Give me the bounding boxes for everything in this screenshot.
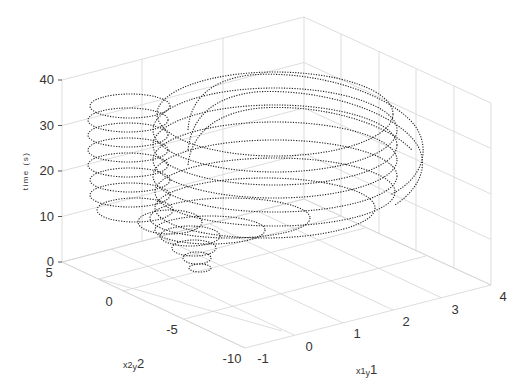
x-tick-label: 2: [402, 314, 409, 329]
z-tick-label: 30: [40, 118, 54, 133]
x-tick-label: 0: [305, 339, 312, 354]
x-tick-label: -1: [257, 351, 269, 366]
y-axis-label: x2y2: [123, 356, 144, 372]
z-tick-label: 40: [40, 72, 54, 87]
3d-plot: 0 10 20 30 40 time (s) 5 0 -5 -10 x2y2 -…: [0, 0, 520, 389]
y-tick-label: 0: [105, 294, 112, 309]
axis-ticks: [58, 80, 62, 262]
z-tick-label: 20: [40, 163, 54, 178]
x-tick-label: 1: [353, 326, 360, 341]
z-axis-label: time (s): [21, 152, 30, 191]
y-tick-label: 5: [45, 265, 52, 280]
y-tick-label: -5: [166, 322, 178, 337]
x-axis-label: x1y1: [356, 362, 377, 378]
svg-text:x2y2: x2y2: [123, 356, 144, 372]
y-tick-label: -10: [223, 351, 242, 366]
x-tick-label: 4: [499, 289, 506, 304]
z-tick-label: 10: [40, 209, 54, 224]
x-tick-label: 3: [451, 302, 458, 317]
svg-text:x1y1: x1y1: [356, 362, 377, 378]
